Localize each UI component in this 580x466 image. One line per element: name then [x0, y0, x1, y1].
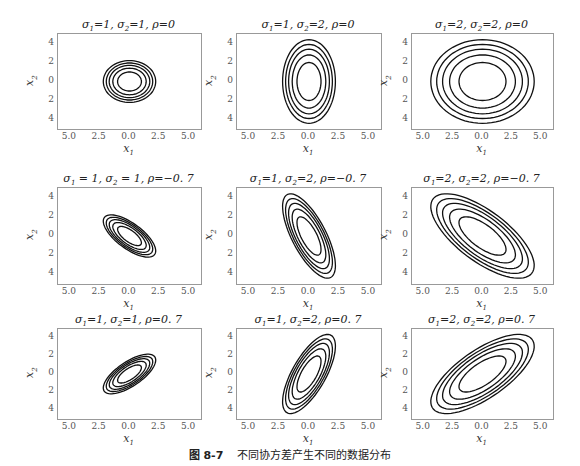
y-tick-label: 4: [223, 191, 233, 201]
y-axis-label: x2: [23, 363, 38, 383]
plot-area: [236, 33, 382, 130]
x-tick-label: 5.0: [528, 421, 552, 431]
x-tick-label: 0.0: [470, 286, 494, 296]
y-tick-label: 2: [398, 56, 408, 66]
x-tick-label: 5.0: [236, 421, 260, 431]
y-tick-label: 4: [44, 403, 54, 413]
x-tick-label: 5.0: [57, 286, 81, 296]
contour-level: [443, 343, 523, 404]
x-tick-label: 5.0: [411, 421, 435, 431]
panel-title: σ1=1, σ2=2, ρ=0: [236, 18, 380, 33]
y-tick-label: 2: [223, 385, 233, 395]
x-tick-label: 5.0: [528, 131, 552, 141]
panel-title: σ1=1, σ2=2, ρ=−0. 7: [236, 172, 380, 187]
y-tick-label: 0: [223, 75, 233, 85]
y-tick-label: 2: [223, 248, 233, 258]
y-tick-label: 4: [44, 331, 54, 341]
y-tick-label: 2: [223, 94, 233, 104]
x-tick-label: 2.5: [440, 131, 464, 141]
contour-level: [118, 226, 142, 245]
y-tick-label: 4: [223, 267, 233, 277]
contour-level: [289, 203, 330, 268]
y-tick-label: 4: [44, 267, 54, 277]
y-tick-label: 2: [44, 385, 54, 395]
x-axis-label: x1: [119, 142, 139, 157]
y-axis-label: x2: [23, 225, 38, 245]
y-tick-label: 2: [223, 210, 233, 220]
y-tick-label: 4: [223, 403, 233, 413]
x-tick-label: 2.5: [146, 286, 170, 296]
plot-area: [57, 187, 202, 285]
contour-lines: [412, 188, 553, 284]
x-tick-label: 5.0: [411, 286, 435, 296]
y-axis-label: x2: [202, 363, 217, 383]
x-axis-label: x1: [298, 142, 318, 157]
contour-level: [113, 223, 146, 250]
contour-level: [450, 209, 516, 263]
plot-area: [57, 33, 202, 130]
x-tick-label: 2.5: [326, 131, 350, 141]
plot-area: [411, 33, 554, 130]
y-tick-label: 4: [398, 191, 408, 201]
y-tick-label: 0: [44, 367, 54, 377]
x-tick-label: 2.5: [266, 286, 290, 296]
contour-level: [437, 199, 529, 274]
contour-level: [109, 220, 149, 253]
x-tick-label: 5.0: [356, 286, 380, 296]
x-tick-label: 5.0: [356, 421, 380, 431]
x-tick-label: 2.5: [87, 421, 111, 431]
y-tick-label: 2: [398, 248, 408, 258]
y-tick-label: 4: [223, 37, 233, 47]
contour-level: [297, 63, 321, 101]
x-tick-label: 0.0: [296, 286, 320, 296]
y-tick-label: 4: [398, 267, 408, 277]
plot-area: [57, 328, 202, 420]
contour-level: [109, 359, 149, 390]
x-tick-label: 5.0: [236, 131, 260, 141]
y-axis-label: x2: [377, 363, 392, 383]
contour-lines: [412, 329, 553, 419]
x-tick-label: 2.5: [440, 421, 464, 431]
contour-level: [286, 199, 333, 274]
contour-level: [443, 203, 523, 268]
y-tick-label: 2: [398, 385, 408, 395]
x-tick-label: 5.0: [528, 286, 552, 296]
y-tick-label: 0: [398, 367, 408, 377]
contour-lines: [237, 329, 381, 419]
contour-lines: [412, 34, 553, 129]
x-axis-label: x1: [119, 297, 139, 312]
x-tick-label: 0.0: [296, 421, 320, 431]
x-tick-label: 2.5: [87, 131, 111, 141]
contour-level: [431, 194, 534, 278]
x-axis-label: x1: [472, 432, 492, 447]
contour-level: [292, 209, 326, 263]
contour-level: [443, 49, 523, 114]
caption-label: 图 8-7: [189, 449, 224, 462]
y-tick-label: 2: [398, 94, 408, 104]
x-tick-label: 0.0: [296, 131, 320, 141]
y-tick-label: 4: [398, 113, 408, 123]
panel-title: σ1=1, σ2=1, ρ=0. 7: [57, 313, 200, 328]
contour-level: [431, 40, 534, 124]
x-tick-label: 2.5: [499, 286, 523, 296]
x-axis-label: x1: [298, 432, 318, 447]
x-tick-label: 5.0: [176, 421, 200, 431]
x-tick-label: 5.0: [176, 131, 200, 141]
panel-title: σ1=1, σ2=1, ρ=0: [57, 18, 200, 33]
plot-area: [236, 328, 382, 420]
y-tick-label: 0: [398, 75, 408, 85]
x-axis-label: x1: [472, 142, 492, 157]
panel-title: σ1=1, σ2=2, ρ=0. 7: [236, 313, 380, 328]
y-tick-label: 2: [44, 94, 54, 104]
contour-level: [459, 217, 506, 255]
x-axis-label: x1: [472, 297, 492, 312]
plot-area: [411, 187, 554, 285]
caption-text: 不同协方差产生不同的数据分布: [237, 449, 391, 462]
y-tick-label: 2: [398, 349, 408, 359]
plot-area: [236, 187, 382, 285]
panel-title: σ1=2, σ2=2, ρ=0. 7: [411, 313, 552, 328]
x-tick-label: 0.0: [470, 131, 494, 141]
x-tick-label: 0.0: [117, 286, 141, 296]
contour-level: [109, 65, 150, 97]
y-tick-label: 2: [44, 349, 54, 359]
